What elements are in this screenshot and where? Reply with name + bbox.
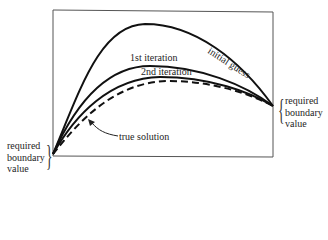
right-boundary-line-1: required (285, 95, 323, 107)
label-second-iteration: 2nd iteration (141, 66, 192, 77)
label-true-solution: true solution (119, 131, 169, 142)
left-boundary-line-1: required (7, 140, 45, 152)
left-boundary-line-3: value (7, 163, 45, 174)
left-brace-icon: } (46, 140, 52, 170)
left-boundary-line-2: boundary (7, 152, 45, 164)
label-first-iteration: 1st iteration (130, 52, 178, 63)
curve-true-solution (53, 81, 273, 154)
right-brace-icon: { (278, 94, 284, 124)
left-boundary-label: required boundary value (7, 140, 45, 174)
curve-second-iteration (53, 77, 273, 154)
right-boundary-line-3: value (285, 118, 323, 130)
right-boundary-label: required boundary value (285, 95, 323, 130)
true-solution-arrow (92, 123, 118, 136)
right-boundary-line-2: boundary (285, 107, 323, 119)
